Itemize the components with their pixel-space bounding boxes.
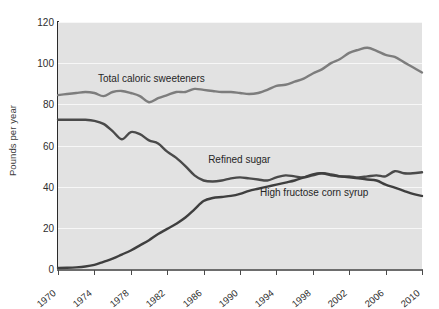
y-tick-label: 40 (28, 181, 54, 192)
y-axis-tick-labels: 020406080100120 (25, 0, 54, 309)
x-tick-mark (276, 270, 277, 275)
x-tick-label: 2002 (326, 287, 349, 309)
y-axis-title: Pounds per year (2, 0, 24, 280)
x-tick-mark (167, 270, 168, 275)
x-tick-label: 1974 (71, 287, 94, 309)
x-tick-label: 1982 (144, 287, 167, 309)
x-tick-mark (386, 270, 387, 275)
x-tick-label: 1998 (289, 287, 312, 309)
x-tick-label: 2010 (399, 287, 422, 309)
x-tick-mark (94, 270, 95, 275)
y-tick-label: 20 (28, 222, 54, 233)
x-tick-mark (240, 270, 241, 275)
y-tick-label: 0 (28, 264, 54, 275)
y-tick-label: 120 (28, 17, 54, 28)
y-tick-label: 100 (28, 58, 54, 69)
series-line (58, 120, 422, 182)
x-tick-label: 1994 (253, 287, 276, 309)
y-tick-label: 60 (28, 140, 54, 151)
series-lines (58, 22, 422, 269)
x-tick-label: 1978 (107, 287, 130, 309)
plot-area (58, 22, 422, 269)
x-tick-mark (58, 270, 59, 275)
x-tick-mark (131, 270, 132, 275)
series-label: High fructose corn syrup (260, 187, 368, 198)
x-tick-mark (204, 270, 205, 275)
y-tick-label: 80 (28, 99, 54, 110)
x-tick-label: 1990 (217, 287, 240, 309)
x-tick-mark (349, 270, 350, 275)
y-axis-title-text: Pounds per year (8, 104, 19, 175)
series-label: Total caloric sweeteners (98, 73, 205, 84)
x-tick-label: 2006 (362, 287, 385, 309)
caloric-sweetener-consumption-chart: Pounds per year 020406080100120 19701974… (0, 0, 439, 309)
x-tick-mark (422, 270, 423, 275)
series-label: Refined sugar (208, 154, 270, 165)
x-tick-label: 1986 (180, 287, 203, 309)
x-tick-mark (313, 270, 314, 275)
